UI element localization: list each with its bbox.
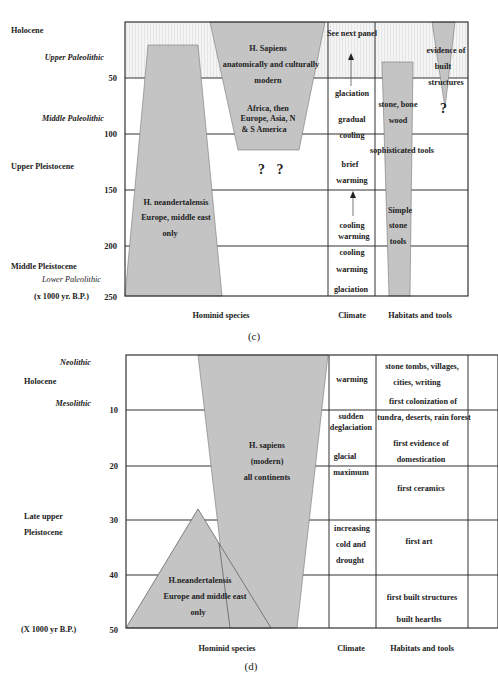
climate-entry: warming [336, 375, 367, 385]
epoch-late-upper: Late upper [24, 512, 63, 522]
climate-entry: warming [336, 265, 367, 275]
tick-50: 50 [110, 625, 119, 635]
habitat-entry: domestication [397, 455, 446, 465]
sapiens-label: H. sapiens [249, 441, 285, 451]
habitat-entry: first ceramics [397, 484, 445, 494]
climate-entry: warming [338, 232, 369, 242]
climate-entry: glaciation [334, 285, 368, 295]
tick-250: 250 [104, 292, 117, 302]
sapiens-region: Europe, Asia, N [241, 114, 296, 124]
climate-entry: cooling [339, 131, 364, 141]
neandertal-region: Europe, middle east [141, 213, 211, 223]
epoch-upper-pleistocene: Upper Pleistocene [11, 162, 74, 172]
climate-entry: cooling [339, 248, 364, 258]
habitat-entry: tools [390, 237, 406, 247]
habitat-entry: evidence of [427, 46, 466, 56]
tick-100: 100 [104, 129, 117, 139]
climate-entry: brief [342, 160, 359, 170]
climate-entry: warming [336, 176, 367, 186]
habitat-entry: stone, bone [378, 100, 417, 110]
tick-30: 30 [110, 515, 119, 525]
sapiens-region: all continents [244, 473, 291, 483]
tick-20: 20 [110, 461, 119, 471]
epoch-holocene: Holocene [24, 377, 56, 387]
climate-entry: cooling [339, 221, 364, 231]
header-habitats: Habitats and tools [390, 644, 454, 654]
arrow-up-icon [350, 191, 356, 198]
neandertal-shape [125, 45, 222, 296]
neandertal-region: only [162, 229, 177, 239]
header-hominid: Hominid species [192, 311, 249, 321]
climate-entry: gradual [338, 115, 365, 125]
header-climate: Climate [338, 311, 366, 321]
habitat-entry: tundra, deserts, rain forest [377, 413, 470, 423]
header-habitats: Habitats and tools [388, 311, 452, 321]
epoch-middle-paleolithic: Middle Paleolithic [42, 114, 104, 124]
sapiens-desc: anatomically and culturally [223, 60, 319, 70]
epoch-holocene: Holocene [11, 26, 43, 36]
tick-40: 40 [110, 570, 119, 580]
units-label: (X 1000 yr B.P.) [21, 625, 76, 635]
habitat-entry: wood [389, 116, 408, 126]
habitat-entry: first colonization of [389, 397, 457, 407]
climate-entry: glaciation [335, 89, 369, 99]
habitat-entry: Simple [388, 206, 412, 216]
climate-entry: deglaciation [330, 423, 372, 433]
epoch-middle-pleistocene: Middle Pleistocene [11, 262, 77, 272]
sapiens-region: Africa, then [247, 104, 289, 114]
header-climate: Climate [337, 644, 365, 654]
habitat-entry: cities, writing [393, 378, 440, 388]
sapiens-desc: (modern) [251, 457, 284, 467]
tick-50: 50 [109, 73, 118, 83]
units-label: (x 1000 yr. B.P.) [34, 292, 89, 302]
habitat-entry: structures [428, 78, 463, 88]
habitat-entry: stone [389, 221, 407, 231]
epoch-lower-paleolithic: Lower Paleolithic [42, 275, 101, 285]
habitat-entry: first built structures [387, 593, 457, 603]
neandertal-label: H. neandertalensis [143, 198, 208, 208]
habitat-entry: first evidence of [393, 439, 448, 449]
neandertal-region: Europe and middle east [164, 592, 247, 602]
habitat-entry: built hearths [397, 615, 442, 625]
caption-d: (d) [245, 660, 258, 672]
habitat-entry: first art [405, 537, 432, 547]
caption-c: (c) [248, 330, 260, 342]
header-hominid: Hominid species [198, 644, 255, 654]
climate-entry: glacial [334, 452, 357, 462]
tick-200: 200 [104, 241, 117, 251]
epoch-mesolithic: Mesolithic [56, 399, 91, 409]
habitat-entry: built [435, 62, 451, 72]
tick-10: 10 [110, 405, 119, 415]
neandertal-region: only [190, 608, 205, 618]
sapiens-label: H. Sapiens [249, 44, 286, 54]
climate-note: See next panel [327, 29, 377, 39]
habitat-entry: stone tombs, villages, [385, 362, 459, 372]
climate-entry: drought [336, 556, 364, 566]
epoch-neolithic: Neolithic [60, 358, 91, 368]
climate-entry: cold and [336, 540, 366, 550]
climate-entry: increasing [334, 524, 370, 534]
unknown-marker: ? [440, 104, 447, 114]
unknown-marker: ? ? [258, 165, 288, 175]
sapiens-region: & S America [241, 125, 286, 135]
tools-bar-shape [382, 62, 413, 296]
habitat-entry: sophisticated tools [370, 146, 434, 156]
epoch-upper-paleolithic: Upper Paleolithic [45, 53, 104, 63]
tick-150: 150 [104, 185, 117, 195]
neandertal-label: H.neandertalensis [168, 576, 231, 586]
epoch-pleistocene: Pleistocene [24, 528, 63, 538]
climate-entry: sudden [338, 412, 363, 422]
climate-entry: maximum [333, 468, 368, 478]
sapiens-desc: modern [254, 76, 281, 86]
